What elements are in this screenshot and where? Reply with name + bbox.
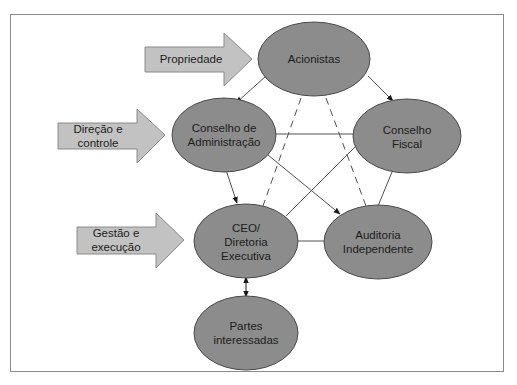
governance-diagram: Propriedade Direção e controle Gestão e … [0,0,517,385]
arrow-label-direcao-1: Direção e [73,123,122,135]
connector-fiscal-ceo [286,146,356,216]
node-conselho-administracao: Conselho de Administração [172,98,276,172]
node-label-ceo-3: Executiva [221,250,271,262]
node-label-auditoria-1: Auditoria [355,229,401,241]
node-label-auditoria-2: Independente [343,243,413,255]
node-label-partes-1: Partes [229,320,262,332]
arrow-label-gestao-1: Gestão e [93,227,140,239]
node-label-admin-2: Administração [188,136,261,148]
node-auditoria-independente: Auditoria Independente [324,205,432,279]
arrow-label-propriedade: Propriedade [160,53,223,65]
arrow-label-direcao-2: controle [78,137,119,149]
node-label-fiscal-1: Conselho [383,124,432,136]
connector-admin-ceo [226,170,237,203]
arrow-propriedade: Propriedade [145,33,252,86]
node-label-ceo-1: CEO/ [232,222,261,234]
node-label-fiscal-2: Fiscal [392,138,422,150]
arrow-gestao-execucao: Gestão e execução [77,213,184,268]
node-conselho-fiscal: Conselho Fiscal [353,99,461,173]
connector-fiscal-auditoria [378,172,392,206]
connector-admin-auditoria [268,155,340,214]
arrow-direcao-controle: Direção e controle [58,109,165,163]
node-label-ceo-2: Diretoria [224,236,268,248]
arrow-label-gestao-2: execução [91,241,140,253]
node-label-admin-1: Conselho de [192,122,257,134]
node-ceo-diretoria: CEO/ Diretoria Executiva [194,204,298,278]
node-partes-interessadas: Partes interessadas [194,296,298,370]
node-label-acionistas: Acionistas [288,53,341,65]
node-label-partes-2: interessadas [213,334,278,346]
connector-acionistas-fiscal [368,76,393,101]
node-acionistas: Acionistas [258,22,370,96]
